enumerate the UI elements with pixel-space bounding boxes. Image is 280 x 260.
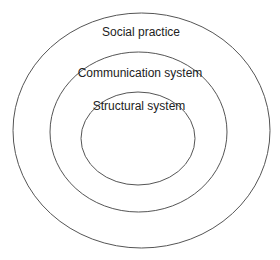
nested-circles-diagram: Social practice Communication system Str… [0, 0, 280, 260]
label-social-practice: Social practice [102, 25, 180, 39]
label-structural-system: Structural system [93, 99, 186, 113]
outer-circle-social-practice [13, 13, 270, 248]
label-communication-system: Communication system [78, 66, 203, 80]
